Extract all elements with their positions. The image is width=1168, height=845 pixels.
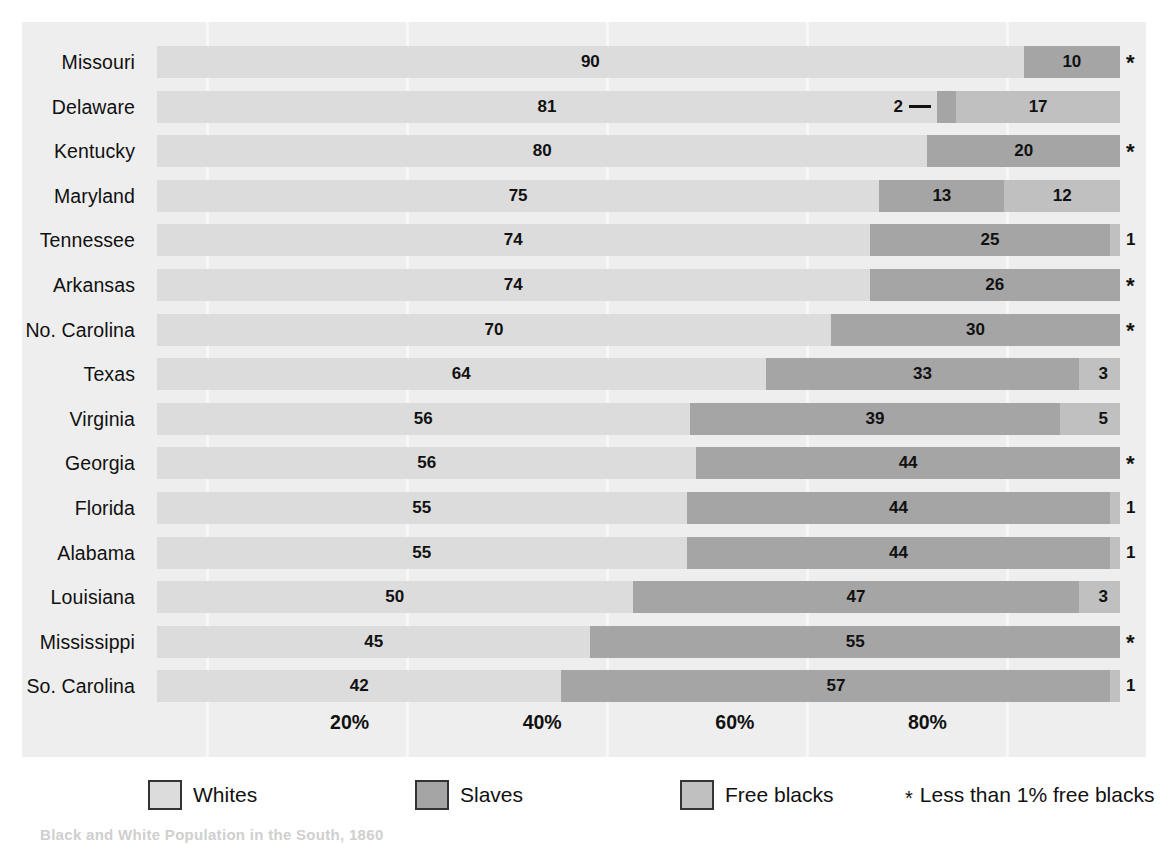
stacked-bar: 8020 [157,135,1120,167]
state-label: Florida [0,486,135,530]
chart-row: Maryland751312 [0,174,1168,218]
chart-row: Delaware81217 [0,85,1168,129]
segment-value: 45 [364,632,383,652]
leader-line [909,105,931,108]
less-than-one-percent-marker: * [1126,269,1156,301]
bar-segment-whites: 74 [157,269,870,301]
legend-label: Whites [193,783,257,807]
less-than-one-percent-marker: * [1126,46,1156,78]
segment-value: 30 [966,320,985,340]
bar-segment-slaves: 57 [561,670,1110,702]
stacked-bar: 9010 [157,46,1120,78]
state-label: No. Carolina [0,308,135,352]
segment-value: 64 [452,364,471,384]
chart-row: Missouri9010* [0,40,1168,84]
stacked-bar: 50473 [157,581,1120,613]
chart-root: Missouri9010*Delaware81217Kentucky8020*M… [0,0,1168,845]
stacked-bar: 56395 [157,403,1120,435]
end-value-label: 1 [1126,224,1156,256]
bar-segment-whites: 75 [157,180,879,212]
segment-value: 57 [826,676,845,696]
segment-value: 20 [1014,141,1033,161]
bar-segment-whites: 55 [157,537,687,569]
bar-segment-free-blacks: 5 [1060,403,1120,435]
segment-value: 44 [889,498,908,518]
bar-segment-slaves: 47 [633,581,1080,613]
stacked-bar: 4555 [157,626,1120,658]
bar-segment-whites: 50 [157,581,633,613]
segment-value: 42 [350,676,369,696]
stacked-bar: 81217 [157,91,1120,123]
bar-segment-slaves: 44 [687,537,1111,569]
legend-footnote-text: Less than 1% free blacks [920,783,1155,807]
state-label: Georgia [0,441,135,485]
state-label: Arkansas [0,263,135,307]
chart-row: Florida55441 [0,486,1168,530]
legend-swatch-slaves [415,780,449,810]
bar-segment-slaves: 55 [590,626,1120,658]
legend-swatch-whites [148,780,182,810]
segment-value: 81 [538,97,557,117]
x-axis-tick: 60% [715,711,754,734]
stacked-bar: 5644 [157,447,1120,479]
chart-legend: WhitesSlavesFree blacks*Less than 1% fre… [0,775,1168,815]
chart-row: Texas64333 [0,352,1168,396]
less-than-one-percent-marker: * [1126,314,1156,346]
segment-value: 44 [889,543,908,563]
segment-value: 17 [1029,97,1048,117]
segment-value: 75 [509,186,528,206]
segment-value: 44 [899,453,918,473]
stacked-bar: 5544 [157,492,1120,524]
less-than-one-percent-marker: * [1126,135,1156,167]
state-label: Alabama [0,531,135,575]
segment-value: 56 [414,409,433,429]
chart-row: Kentucky8020* [0,129,1168,173]
state-label: Virginia [0,397,135,441]
state-label: Missouri [0,40,135,84]
bar-segment-whites: 56 [157,403,690,435]
x-axis-tick: 80% [908,711,947,734]
segment-value: 2 [894,97,931,117]
segment-value: 74 [504,275,523,295]
state-label: Maryland [0,174,135,218]
chart-row: So. Carolina42571 [0,664,1168,708]
bar-segment-whites: 80 [157,135,927,167]
chart-row: No. Carolina7030* [0,308,1168,352]
segment-value: 12 [1053,186,1072,206]
bar-segment-whites: 55 [157,492,687,524]
bar-segment-slaves: 25 [870,224,1111,256]
bar-segment-free-blacks: 17 [956,91,1120,123]
segment-value: 10 [1062,52,1081,72]
bar-segment-whites: 81 [157,91,937,123]
segment-value: 3 [1099,587,1108,607]
bar-segment-free-blacks [1110,670,1120,702]
bar-segment-free-blacks: 3 [1079,358,1120,390]
legend-item[interactable]: Whites [148,780,257,810]
legend-swatch-free-blacks [680,780,714,810]
bar-segment-slaves: 44 [687,492,1111,524]
legend-label: Free blacks [725,783,834,807]
figure-caption: Black and White Population in the South,… [40,826,384,843]
segment-value: 56 [417,453,436,473]
chart-row: Tennessee74251 [0,218,1168,262]
bar-segment-slaves: 20 [927,135,1120,167]
legend-item[interactable]: Free blacks [680,780,834,810]
bar-segment-whites: 56 [157,447,696,479]
end-value-label: 1 [1126,492,1156,524]
bar-segment-free-blacks [1110,224,1120,256]
segment-value: 74 [504,230,523,250]
state-label: Kentucky [0,129,135,173]
segment-value: 26 [985,275,1004,295]
state-label: Tennessee [0,218,135,262]
bar-segment-slaves: 39 [690,403,1061,435]
segment-value: 25 [981,230,1000,250]
segment-value: 33 [913,364,932,384]
legend-footnote: *Less than 1% free blacks [905,783,1154,807]
bar-segment-slaves: 33 [766,358,1080,390]
legend-item[interactable]: Slaves [415,780,523,810]
bar-segment-whites: 70 [157,314,831,346]
state-label: So. Carolina [0,664,135,708]
segment-value: 55 [846,632,865,652]
chart-row: Louisiana50473 [0,575,1168,619]
segment-value: 3 [1099,364,1108,384]
